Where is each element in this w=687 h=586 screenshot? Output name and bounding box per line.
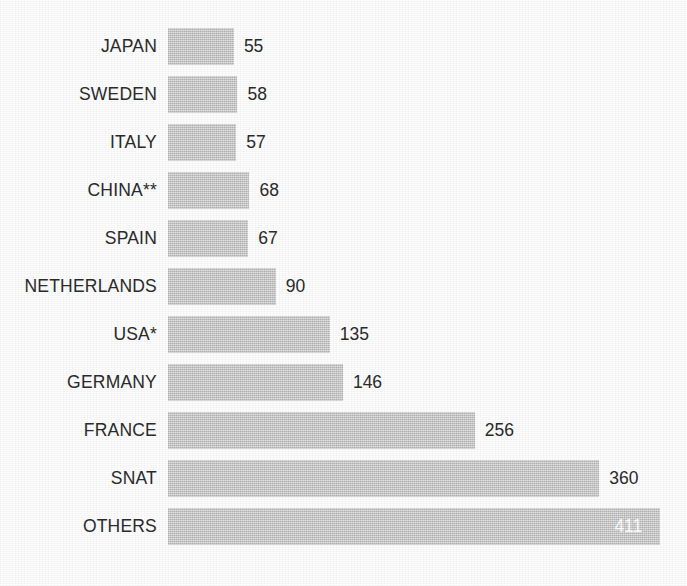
bar-track: 55: [168, 28, 687, 65]
bar-row: CHINA**68: [0, 172, 687, 220]
bar: [168, 76, 237, 113]
bar-value-label: 55: [244, 28, 263, 65]
bar-track: 90: [168, 268, 687, 305]
bar-category-label: GERMANY: [67, 364, 157, 401]
bar-value-label: 57: [246, 124, 265, 161]
bar-category-label: USA*: [113, 316, 157, 353]
bar: [168, 460, 599, 497]
bar-track: 256: [168, 412, 687, 449]
bar-row: ITALY57: [0, 124, 687, 172]
bar-row: USA*135: [0, 316, 687, 364]
bar: [168, 508, 660, 545]
bar-value-label: 135: [340, 316, 369, 353]
bar-category-label: FRANCE: [84, 412, 157, 449]
bar-value-label: 67: [258, 220, 277, 257]
bar-category-label: SNAT: [111, 460, 157, 497]
bar: [168, 364, 343, 401]
bar-category-label: NETHERLANDS: [24, 268, 157, 305]
bar-value-label: 68: [259, 172, 278, 209]
bar-category-label: JAPAN: [101, 28, 157, 65]
bar-row: SNAT360: [0, 460, 687, 508]
bar-track: 68: [168, 172, 687, 209]
bar-category-label: OTHERS: [83, 508, 157, 545]
bar-category-label: CHINA**: [88, 172, 157, 209]
bar-value-label: 360: [609, 460, 638, 497]
bar-value-label: 90: [286, 268, 305, 305]
bar-row: FRANCE256: [0, 412, 687, 460]
bar: [168, 124, 236, 161]
bar-row: OTHERS411: [0, 508, 687, 556]
bar-value-label: 146: [353, 364, 382, 401]
bar-row: SWEDEN58: [0, 76, 687, 124]
bar: [168, 316, 330, 353]
bar-track: 57: [168, 124, 687, 161]
bar-value-label: 256: [485, 412, 514, 449]
bar-category-label: ITALY: [110, 124, 157, 161]
bar: [168, 28, 234, 65]
bar-track: 411: [168, 508, 687, 545]
bar-value-label: 411: [614, 508, 642, 545]
bar-track: 360: [168, 460, 687, 497]
bar-track: 67: [168, 220, 687, 257]
bar-track: 135: [168, 316, 687, 353]
bar-row: JAPAN55: [0, 28, 687, 76]
horizontal-bar-chart: JAPAN55SWEDEN58ITALY57CHINA**68SPAIN67NE…: [0, 0, 687, 586]
bar-track: 58: [168, 76, 687, 113]
bar: [168, 220, 248, 257]
bar: [168, 412, 475, 449]
bar-value-label: 58: [247, 76, 266, 113]
bar: [168, 172, 249, 209]
chart-plot-area: JAPAN55SWEDEN58ITALY57CHINA**68SPAIN67NE…: [0, 28, 687, 556]
bar-category-label: SWEDEN: [79, 76, 157, 113]
bar-row: NETHERLANDS90: [0, 268, 687, 316]
bar: [168, 268, 276, 305]
bar-row: GERMANY146: [0, 364, 687, 412]
bar-row: SPAIN67: [0, 220, 687, 268]
bar-track: 146: [168, 364, 687, 401]
bar-category-label: SPAIN: [105, 220, 157, 257]
